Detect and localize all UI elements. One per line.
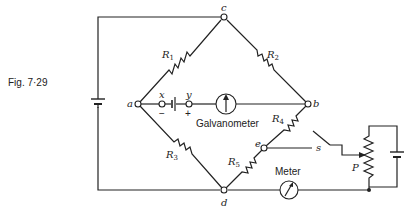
node-a xyxy=(135,101,141,107)
potentiometer-p-label: P xyxy=(351,162,359,173)
node-b xyxy=(305,101,311,107)
meter-label: Meter xyxy=(275,166,301,177)
node-e-label: e xyxy=(255,138,261,149)
terminal-x xyxy=(159,101,165,107)
node-b-label: b xyxy=(313,98,319,109)
node-e xyxy=(261,145,267,151)
galvanometer-label: Galvanometer xyxy=(196,118,259,129)
left-battery-icon xyxy=(91,99,105,108)
minus-sign: − xyxy=(159,108,165,119)
r5-label: R5 xyxy=(227,156,240,169)
terminal-x-label: x xyxy=(159,89,165,100)
right-battery-loop xyxy=(369,126,397,187)
galvanometer-cell-icon xyxy=(172,97,175,111)
terminal-y-label: y xyxy=(185,89,192,100)
resistor-r2-arm xyxy=(227,20,306,102)
node-c-label: c xyxy=(221,2,227,13)
r3-label: R3 xyxy=(165,149,178,162)
switch-s-label: s xyxy=(316,142,321,153)
resistor-r1-arm xyxy=(140,20,221,102)
r4-label: R4 xyxy=(271,113,285,126)
node-d xyxy=(221,187,227,193)
figure-caption: Fig. 7·29 xyxy=(8,77,48,88)
node-a-label: a xyxy=(127,98,133,109)
meter-icon xyxy=(280,181,298,199)
plus-sign: + xyxy=(185,108,191,119)
right-battery-icon xyxy=(390,152,404,157)
r2-label: R2 xyxy=(266,49,279,62)
node-d-label: d xyxy=(221,197,227,208)
galvanometer-icon xyxy=(216,94,236,114)
r1-label: R1 xyxy=(161,49,174,62)
node-c xyxy=(221,14,227,20)
resistor-r4-arm xyxy=(266,106,306,146)
potentiometer-icon xyxy=(364,131,373,187)
terminal-y xyxy=(186,101,192,107)
bridge-circuit-diagram: Fig. 7·29 R1 R2 R3 R4 R5 xyxy=(0,0,406,211)
junction-dot xyxy=(367,188,371,192)
